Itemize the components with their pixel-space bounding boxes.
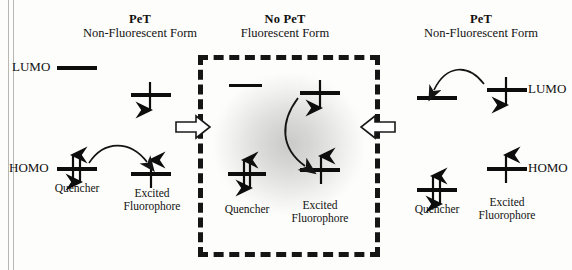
page-margin-rule (8, 0, 9, 270)
caption-line-1: Excited (489, 196, 524, 208)
left-quencher-homo-level (57, 167, 97, 172)
fluorescent-form-box (198, 55, 380, 257)
left-quencher-lumo-level (57, 66, 97, 71)
center-quencher-lumo-level (229, 84, 262, 89)
left-pet-transfer-arrow (89, 146, 147, 163)
caption-line-1: Excited (302, 199, 337, 211)
panel-subtitle-right: Non-Fluorescent Form (388, 26, 572, 40)
panel-heading-right: PeT Non-Fluorescent Form (388, 12, 572, 41)
center-fluorophore-caption: Excited Fluorophore (281, 199, 359, 225)
page-margin-rule (13, 0, 14, 270)
left-fluorophore-caption: Excited Fluorophore (113, 187, 191, 213)
panel-title-center: No PeT (196, 12, 374, 26)
left-fluorophore-lumo-level (131, 93, 171, 98)
diagram-canvas: PeT Non-Fluorescent Form No PeT Fluoresc… (0, 0, 572, 270)
center-quencher-caption: Quencher (207, 203, 287, 216)
caption-line-2: Fluorophore (292, 212, 349, 224)
center-quencher-homo-level (228, 172, 266, 177)
center-fluorophore-lumo-level (300, 91, 340, 96)
right-fluorophore-caption: Excited Fluorophore (468, 196, 546, 222)
left-quencher-caption: Quencher (37, 182, 117, 195)
panel-title-right: PeT (388, 12, 572, 26)
caption-line-2: Fluorophore (124, 200, 181, 212)
panel-subtitle-center: Fluorescent Form (196, 26, 374, 40)
left-fluorophore-homo-level (131, 172, 171, 177)
right-quencher-caption: Quencher (397, 203, 477, 216)
right-quencher-homo-level (417, 188, 457, 193)
left-homo-label: HOMO (9, 160, 49, 176)
right-fluorophore-lumo-level (487, 88, 527, 93)
right-fluorophore-homo-level (487, 167, 527, 172)
right-lumo-label: LUMO (528, 81, 566, 97)
caption-line-2: Fluorophore (479, 209, 536, 221)
right-quencher-lumo-level (417, 96, 457, 101)
caption-line-1: Excited (134, 187, 169, 199)
right-pet-transfer-arrow (434, 70, 484, 90)
right-homo-label: HOMO (528, 160, 568, 176)
panel-heading-center: No PeT Fluorescent Form (196, 12, 374, 41)
center-fluorophore-homo-level (300, 168, 340, 173)
left-lumo-label: LUMO (12, 59, 50, 75)
